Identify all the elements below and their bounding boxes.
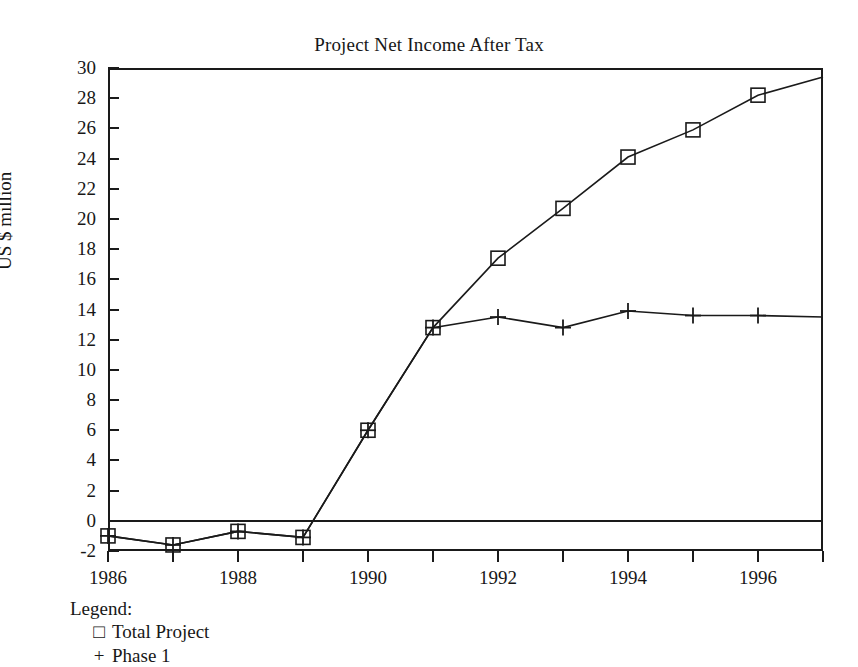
x-axis-tick — [107, 551, 109, 562]
x-axis-tick — [692, 551, 694, 562]
y-axis-title: US $ million — [0, 70, 16, 270]
y-axis-tick-label: 12 — [36, 330, 96, 349]
x-axis-tick — [367, 551, 369, 562]
y-axis-tick-label: 2 — [36, 481, 96, 500]
x-axis-tick-label: 1996 — [708, 568, 808, 587]
square-marker — [556, 201, 570, 215]
series-line-phase-1 — [108, 311, 823, 545]
y-axis-tick-label: 10 — [36, 360, 96, 379]
x-axis-tick — [237, 551, 239, 562]
x-axis-tick — [432, 551, 434, 562]
square-marker — [491, 251, 505, 265]
square-marker — [751, 88, 765, 102]
x-axis-tick-label: 1986 — [58, 568, 158, 587]
plus-marker-icon: + — [86, 644, 112, 667]
legend-title: Legend: — [70, 597, 490, 620]
y-axis-tick-label: 18 — [36, 239, 96, 258]
series-lines — [108, 68, 823, 551]
y-axis-tick-label: 22 — [36, 179, 96, 198]
chart-title: Project Net Income After Tax — [0, 34, 858, 56]
x-axis-tick — [562, 551, 564, 562]
y-axis-tick-label: 26 — [36, 118, 96, 137]
y-axis-tick-label: 14 — [36, 300, 96, 319]
x-axis-tick — [302, 551, 304, 562]
y-axis-tick-label: 4 — [36, 450, 96, 469]
square-marker-icon: □ — [86, 620, 112, 644]
y-axis-tick-label: 8 — [36, 390, 96, 409]
x-axis-tick-label: 1994 — [578, 568, 678, 587]
y-axis-tick-label: 20 — [36, 209, 96, 228]
y-axis-tick-label: 0 — [36, 511, 96, 530]
x-axis-tick — [627, 551, 629, 562]
square-marker — [621, 150, 635, 164]
x-axis-tick-label: 1990 — [318, 568, 418, 587]
plot-area — [108, 68, 823, 551]
legend-label-phase-1: Phase 1 — [112, 644, 171, 667]
y-axis-tick-label: 28 — [36, 88, 96, 107]
plus-marker — [555, 320, 571, 336]
plus-marker — [685, 308, 701, 324]
legend: Legend: □ Total Project + Phase 1 — [70, 597, 490, 667]
x-axis-tick-label: 1988 — [188, 568, 288, 587]
y-axis-tick-label: 24 — [36, 149, 96, 168]
series-line-total-project — [108, 77, 823, 545]
square-marker — [686, 123, 700, 137]
x-axis-tick — [497, 551, 499, 562]
y-axis-tick-label: 16 — [36, 269, 96, 288]
plus-marker — [620, 303, 636, 319]
y-axis-tick-label: -2 — [36, 541, 96, 560]
plus-marker — [750, 308, 766, 324]
legend-item-total-project: □ Total Project — [86, 620, 490, 644]
y-axis-tick-label: 30 — [36, 58, 96, 77]
x-axis-tick — [757, 551, 759, 562]
chart-page: Project Net Income After Tax US $ millio… — [0, 0, 858, 667]
y-axis-tick-label: 6 — [36, 420, 96, 439]
plus-marker — [490, 309, 506, 325]
x-axis-tick-label: 1992 — [448, 568, 548, 587]
legend-label-total-project: Total Project — [112, 620, 209, 644]
legend-item-phase-1: + Phase 1 — [86, 644, 490, 667]
x-axis-tick — [822, 551, 824, 562]
